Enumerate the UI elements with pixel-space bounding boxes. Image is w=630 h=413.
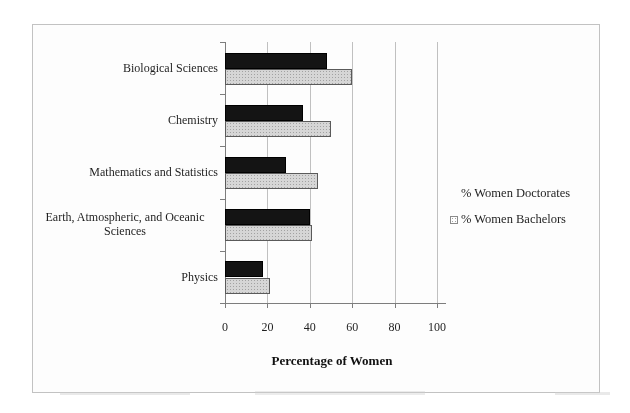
x-tick-mark bbox=[437, 303, 438, 308]
y-tick-mark bbox=[220, 42, 225, 43]
x-tick-label: 0 bbox=[208, 320, 242, 335]
legend-item-doctorates: % Women Doctorates bbox=[450, 186, 570, 201]
chart-bar bbox=[225, 121, 331, 137]
x-tick-label: 60 bbox=[335, 320, 369, 335]
gray-dotted-square-icon bbox=[450, 216, 458, 224]
chart-bar bbox=[225, 173, 318, 189]
x-tick-label: 20 bbox=[250, 320, 284, 335]
chart-bar bbox=[225, 53, 327, 69]
y-tick-mark bbox=[220, 199, 225, 200]
chart-bar bbox=[225, 278, 270, 294]
y-tick-mark bbox=[220, 303, 225, 304]
chart-bar bbox=[225, 261, 263, 277]
y-tick-mark bbox=[220, 94, 225, 95]
chart-bar bbox=[225, 157, 286, 173]
legend-label-bachelors: % Women Bachelors bbox=[461, 212, 566, 227]
category-label: Chemistry bbox=[168, 114, 218, 128]
category-label: Physics bbox=[181, 271, 218, 285]
x-tick-label: 100 bbox=[420, 320, 454, 335]
chart-bar bbox=[225, 105, 303, 121]
chart-screenshot: 020406080100Biological SciencesChemistry… bbox=[0, 0, 630, 413]
gridline bbox=[437, 42, 438, 303]
chart-bar bbox=[225, 225, 312, 241]
x-axis-title: Percentage of Women bbox=[242, 353, 422, 369]
scan-noise bbox=[60, 392, 190, 395]
x-axis-line bbox=[225, 303, 446, 304]
x-tick-mark bbox=[395, 303, 396, 308]
x-tick-label: 80 bbox=[378, 320, 412, 335]
x-tick-label: 40 bbox=[293, 320, 327, 335]
x-tick-mark bbox=[352, 303, 353, 308]
scan-noise bbox=[255, 391, 425, 395]
chart-bar bbox=[225, 69, 352, 85]
gridline bbox=[352, 42, 353, 303]
x-tick-mark bbox=[267, 303, 268, 308]
category-label: Earth, Atmospheric, and Oceanic Sciences bbox=[32, 212, 218, 240]
category-label: Biological Sciences bbox=[123, 62, 218, 76]
y-tick-mark bbox=[220, 146, 225, 147]
scan-noise bbox=[555, 392, 610, 395]
black-square-icon bbox=[450, 190, 458, 198]
gridline bbox=[395, 42, 396, 303]
category-label: Mathematics and Statistics bbox=[89, 166, 218, 180]
x-tick-mark bbox=[225, 303, 226, 308]
x-tick-mark bbox=[310, 303, 311, 308]
legend-label-doctorates: % Women Doctorates bbox=[461, 186, 570, 201]
chart-bar bbox=[225, 209, 310, 225]
legend-item-bachelors: % Women Bachelors bbox=[450, 212, 566, 227]
y-tick-mark bbox=[220, 251, 225, 252]
bar-chart-plot-area: 020406080100Biological SciencesChemistry… bbox=[0, 0, 630, 413]
